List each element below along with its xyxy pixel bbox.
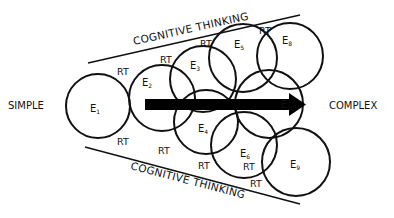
event-label-e1: E1	[90, 103, 100, 115]
simple-label: SIMPLE	[8, 100, 44, 111]
rt-label-2: RT	[160, 54, 172, 65]
event-label-e9: E9	[290, 159, 300, 171]
event-label-e5: E5	[234, 39, 244, 51]
rt-label-9: RT	[250, 178, 262, 189]
event-label-e2: E2	[142, 77, 152, 89]
rt-label-1: RT	[117, 66, 129, 77]
complex-label: COMPLEX	[329, 100, 377, 111]
rt-label-6: RT	[158, 145, 170, 156]
complexity-diagram: COGNITIVE THINKING COGNITIVE THINKING E1…	[0, 0, 394, 218]
rt-label-5: RT	[117, 136, 129, 147]
top-band-label: COGNITIVE THINKING	[132, 10, 250, 47]
event-label-e6: E6	[240, 148, 250, 160]
rt-label-7: RT	[198, 160, 210, 171]
bottom-band-label: COGNITIVE THINKING	[129, 159, 246, 200]
rt-label-4: RT	[259, 25, 271, 36]
event-label-e3: E3	[190, 60, 200, 72]
rt-label-8: RT	[243, 161, 255, 172]
rt-label-3: RT	[200, 38, 212, 49]
event-circle-e1	[66, 74, 130, 138]
event-label-e4: E4	[198, 123, 208, 135]
event-label-e8: E8	[282, 35, 292, 47]
